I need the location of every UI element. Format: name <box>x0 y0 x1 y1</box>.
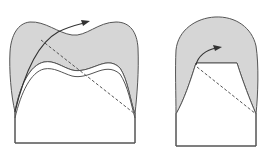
left-figure <box>10 20 139 143</box>
left-arrowhead-icon <box>81 20 90 26</box>
right-figure <box>176 17 258 146</box>
diagram-canvas: Two tooth-like cross-section schematics:… <box>0 0 265 159</box>
left-core-upper-contour <box>15 62 135 143</box>
